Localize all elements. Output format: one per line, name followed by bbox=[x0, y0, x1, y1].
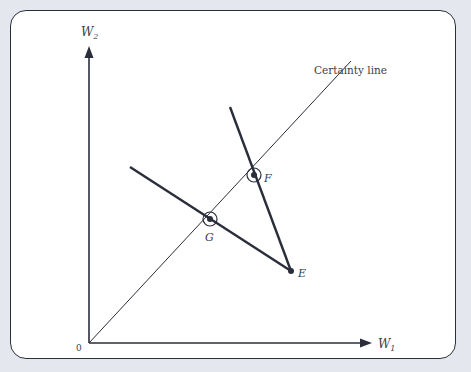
certainty-line bbox=[89, 61, 351, 343]
point-E bbox=[288, 268, 294, 274]
y-axis bbox=[85, 46, 94, 343]
x-axis-label: W1 bbox=[378, 337, 395, 353]
point-G bbox=[203, 212, 217, 226]
diagram-canvas: W2 W1 0 Certainty line F G E bbox=[0, 0, 471, 372]
line-through-F bbox=[230, 107, 291, 271]
y-axis-arrow-icon bbox=[85, 46, 94, 58]
point-G-label: G bbox=[205, 231, 214, 244]
point-F-label: F bbox=[263, 172, 272, 185]
certainty-line-label: Certainty line bbox=[314, 64, 387, 76]
y-axis-label: W2 bbox=[81, 25, 98, 41]
origin-label: 0 bbox=[76, 343, 82, 353]
point-E-label: E bbox=[297, 267, 306, 280]
x-axis-arrow-icon bbox=[360, 339, 372, 348]
x-axis bbox=[89, 339, 372, 348]
